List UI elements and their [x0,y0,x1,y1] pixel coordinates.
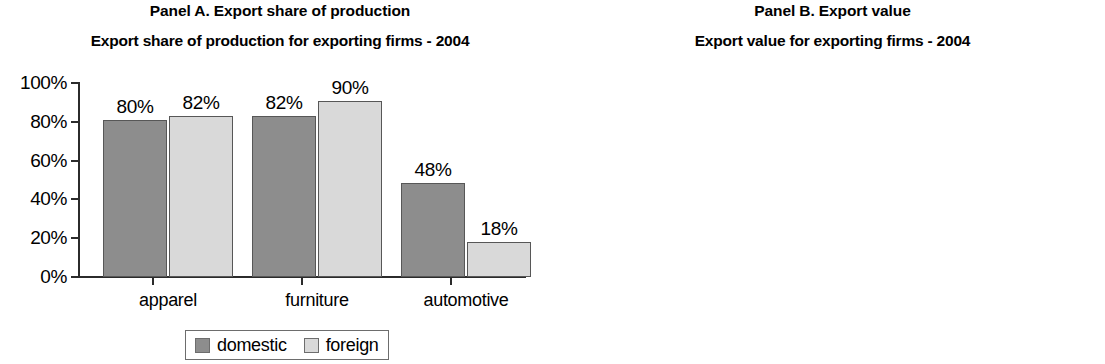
legend-item-foreign[interactable]: foreign [304,335,379,356]
panel-a-ytick-label-100: 100% [20,72,67,94]
panel-a-ytick-label-40: 40% [30,188,67,210]
bar-value-furniture-domestic: 82% [266,92,303,114]
panel-a-label: Panel A. Export share of production [0,2,560,20]
panel-a-ytick-label-20: 20% [30,227,67,249]
legend-swatch-domestic-icon [195,338,210,353]
bar-furniture-domestic[interactable]: 82% [252,116,316,277]
panel-a-xtick-furniture [301,278,303,285]
panel-a-ytick-0 [71,276,78,278]
panel-a-ytick-80 [71,121,78,123]
bar-automotive-domestic[interactable]: 48% [401,183,465,277]
bar-value-furniture-foreign: 90% [332,77,369,99]
panel-a-y-axis [78,82,80,278]
bar-automotive-foreign[interactable]: 18% [467,242,531,277]
panel-a-xtick-apparel [152,278,154,285]
panel-b: Panel B. Export value Export value for e… [560,0,1105,364]
panel-a-ytick-label-0: 0% [40,266,67,288]
panel-a-category-furniture: furniture [285,290,348,311]
panel-b-label: Panel B. Export value [560,2,1105,20]
panel-a-xtick-automotive [450,278,452,285]
panel-a-ytick-20 [71,237,78,239]
bar-value-apparel-foreign: 82% [183,92,220,114]
panel-a-ytick-label-60: 60% [30,150,67,172]
panel-a-legend: domestic foreign [185,330,389,360]
bar-value-automotive-foreign: 18% [481,218,518,240]
panel-b-chart-title: Export value for exporting firms - 2004 [560,32,1105,50]
legend-label-foreign: foreign [326,335,379,356]
bar-apparel-foreign[interactable]: 82% [169,116,233,277]
panel-a-ytick-60 [71,160,78,162]
panel-a-category-automotive: automotive [423,290,508,311]
legend-swatch-foreign-icon [304,338,319,353]
panel-a-category-apparel: apparel [139,290,197,311]
panel-a-plot-area: 0% 20% 40% 60% 80% 100% 80% 82% apparel [78,82,526,278]
panel-a-ytick-40 [71,198,78,200]
panel-a: Panel A. Export share of production Expo… [0,0,560,364]
panel-a-chart-title: Export share of production for exporting… [0,32,560,50]
two-panel-bar-chart-figure: Panel A. Export share of production Expo… [0,0,1105,364]
panel-a-ytick-label-80: 80% [30,111,67,133]
bar-value-apparel-domestic: 80% [117,96,154,118]
legend-item-domestic[interactable]: domestic [195,335,287,356]
panel-a-ytick-100 [71,82,78,84]
legend-label-domestic: domestic [217,335,287,356]
bar-value-automotive-domestic: 48% [415,159,452,181]
bar-apparel-domestic[interactable]: 80% [103,120,167,277]
bar-furniture-foreign[interactable]: 90% [318,101,382,277]
